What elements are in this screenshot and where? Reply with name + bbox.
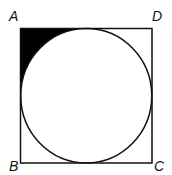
shaded-corner-region [21, 29, 87, 97]
vertex-label-c: C [154, 158, 165, 174]
geometry-diagram: A D B C [0, 0, 172, 175]
vertex-label-a: A [8, 8, 18, 24]
vertex-label-d: D [152, 8, 162, 24]
vertex-label-b: B [9, 158, 18, 174]
inscribed-circle [21, 29, 152, 163]
